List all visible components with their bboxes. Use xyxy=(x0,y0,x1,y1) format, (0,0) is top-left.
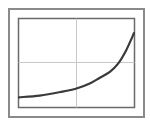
chart-plot xyxy=(0,0,150,121)
